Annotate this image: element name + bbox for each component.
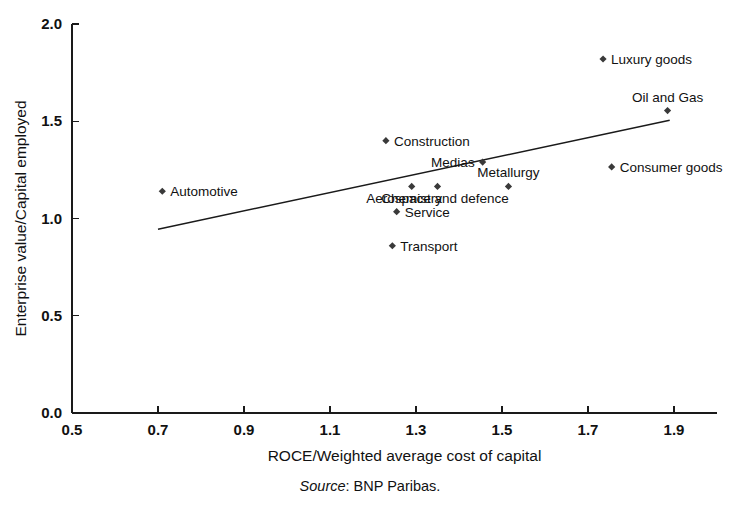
- source-caption: Source: BNP Paribas.: [0, 478, 740, 494]
- data-point-label: Metallurgy: [477, 165, 540, 180]
- data-point-label: Transport: [400, 239, 458, 254]
- y-tick-label: 1.0: [41, 210, 62, 227]
- data-point-marker: [608, 163, 615, 170]
- data-point-marker: [505, 183, 512, 190]
- y-tick-label: 2.0: [41, 15, 62, 32]
- data-point: Metallurgy: [477, 165, 540, 190]
- data-point-marker: [664, 107, 671, 114]
- y-tick-label: 0.0: [41, 404, 62, 421]
- axes: [72, 24, 717, 413]
- data-point-marker: [159, 188, 166, 195]
- axis-tick-labels: 0.00.51.01.52.00.50.70.91.11.31.51.71.9: [41, 15, 684, 438]
- x-tick-label: 1.3: [406, 421, 427, 438]
- x-tick-label: 0.5: [62, 421, 83, 438]
- data-point-label: Oil and Gas: [632, 90, 704, 105]
- data-points: AutomotiveConstructionChemistryAerospace…: [159, 52, 723, 254]
- data-point: Consumer goods: [608, 160, 723, 175]
- y-tick-label: 1.5: [41, 112, 62, 129]
- x-axis-title: ROCE/Weighted average cost of capital: [268, 447, 542, 464]
- data-point-marker: [389, 242, 396, 249]
- x-tick-label: 1.5: [492, 421, 513, 438]
- data-point-label: Construction: [394, 134, 470, 149]
- x-tick-label: 0.7: [148, 421, 169, 438]
- x-tick-label: 0.9: [234, 421, 255, 438]
- data-point: Construction: [382, 134, 469, 149]
- data-point-label: Consumer goods: [620, 160, 723, 175]
- data-point-marker: [382, 137, 389, 144]
- data-point-label: Service: [405, 205, 450, 220]
- data-point: Automotive: [159, 184, 238, 199]
- x-tick-label: 1.9: [664, 421, 685, 438]
- source-text: BNP Paribas.: [354, 478, 441, 494]
- scatter-plot: 0.00.51.01.52.00.50.70.91.11.31.51.71.9 …: [0, 0, 740, 506]
- data-point-label: Luxury goods: [611, 52, 692, 67]
- y-tick-label: 0.5: [41, 307, 62, 324]
- data-point: Service: [393, 205, 450, 220]
- data-point: Luxury goods: [599, 52, 692, 67]
- data-point-label: Automotive: [170, 184, 238, 199]
- axis-ticks: [72, 24, 674, 413]
- data-point-label: Medias: [431, 155, 475, 170]
- data-point: Transport: [389, 239, 458, 254]
- data-point-marker: [434, 183, 441, 190]
- data-point-marker: [599, 55, 606, 62]
- x-tick-label: 1.1: [320, 421, 341, 438]
- chart-figure: 0.00.51.01.52.00.50.70.91.11.31.51.71.9 …: [0, 0, 740, 506]
- source-separator: :: [346, 478, 354, 494]
- data-point-marker: [408, 183, 415, 190]
- data-point-marker: [393, 208, 400, 215]
- data-point: Oil and Gas: [632, 90, 704, 115]
- source-prefix: Source: [300, 478, 346, 494]
- x-tick-label: 1.7: [578, 421, 599, 438]
- data-point: Aerospace and defence: [366, 183, 509, 207]
- y-axis-title: Enterprise value/Capital employed: [12, 100, 29, 336]
